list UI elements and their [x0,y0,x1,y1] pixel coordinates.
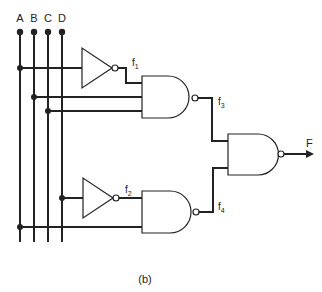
input-label-c: C [44,12,52,24]
wire-f4 [199,168,228,212]
terminal-dot-d [59,29,65,35]
inverter-1-body [82,48,112,88]
signal-label-f4: f4 [218,201,225,214]
figure-caption: (b) [138,273,151,285]
inverter-2-body [83,178,113,218]
nand-1-body [142,76,189,118]
output-arrow-icon [306,150,314,158]
junction-dot-b [31,94,37,100]
input-label-a: A [16,12,24,24]
junction-dot-a-inv1 [17,65,23,71]
nand-2-bubble [193,209,199,215]
signal-label-f2: f2 [125,184,132,197]
junction-dot-d [59,195,65,201]
input-label-b: B [30,12,37,24]
nand-2-body [142,191,191,233]
nand-3-body [228,134,278,175]
logic-circuit-diagram: A B C D f1 f2 f3 f4 F (b) [0,0,322,292]
input-label-d: D [58,12,66,24]
terminal-dot-a [17,29,23,35]
nand-3-bubble [278,151,284,157]
inverter-1-bubble [112,65,118,71]
output-label-f: F [306,137,313,149]
signal-label-f3: f3 [218,96,225,109]
signal-label-f1: f1 [132,57,139,70]
wire-f1 [118,68,142,83]
nand-1-bubble [192,95,198,101]
junction-dot-c [45,108,51,114]
terminal-dot-b [31,29,37,35]
terminal-dot-c [45,29,51,35]
junction-dot-a-nand2 [17,224,23,230]
inverter-2-bubble [113,195,119,201]
